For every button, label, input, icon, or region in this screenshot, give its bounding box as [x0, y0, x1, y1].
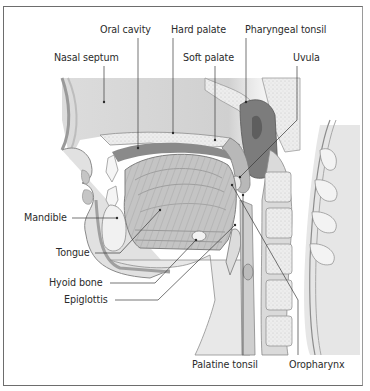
palatine-tonsil-shape: [243, 264, 253, 280]
label-hyoid-bone: Hyoid bone: [49, 277, 103, 288]
tongue-shape: [124, 154, 236, 250]
label-soft-palate: Soft palate: [183, 52, 234, 63]
label-mandible: Mandible: [24, 212, 67, 223]
label-uvula: Uvula: [293, 52, 320, 63]
label-palatine-tonsil: Palatine tonsil: [192, 359, 258, 370]
hyoid-bone-shape: [192, 231, 206, 241]
label-nasal-septum: Nasal septum: [54, 52, 119, 63]
label-pharyngeal-tonsil: Pharyngeal tonsil: [245, 24, 326, 35]
label-oral-cavity: Oral cavity: [100, 24, 151, 35]
label-oropharynx: Oropharynx: [289, 359, 345, 370]
mandible-shape: [102, 205, 126, 251]
label-hard-palate: Hard palate: [171, 24, 226, 35]
label-epiglottis: Epiglottis: [64, 294, 108, 305]
label-tongue: Tongue: [56, 247, 90, 258]
teeth: [106, 155, 118, 212]
posterior-spine: [304, 120, 360, 355]
cervical-spine: [261, 150, 292, 355]
